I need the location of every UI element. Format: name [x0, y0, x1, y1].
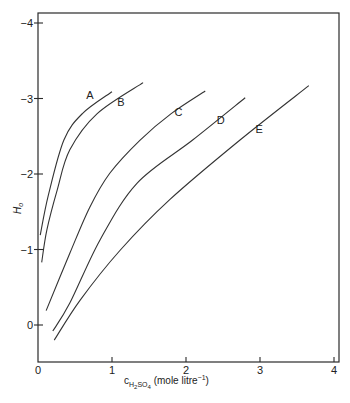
curve-label-e: E — [256, 123, 263, 135]
y-tick-label: 0 — [27, 319, 33, 331]
x-axis-ticks: 01234 — [35, 357, 337, 376]
curve-label-b: B — [117, 96, 124, 108]
curve-c — [46, 91, 205, 311]
y-tick-label: −4 — [20, 17, 33, 29]
x-tick-label: 3 — [257, 364, 263, 376]
curve-label-d: D — [217, 114, 225, 126]
curve-e — [54, 86, 309, 340]
acidity-function-chart: 01234 0−1−2−3−4 ABCDE cH2SO4 (mole litre… — [0, 0, 350, 403]
x-axis-label: cH2SO4 (mole litre−1) — [124, 374, 209, 390]
x-tick-label: 4 — [331, 364, 337, 376]
y-tick-label: −2 — [20, 168, 33, 180]
curve-d — [53, 98, 245, 331]
y-tick-label: −1 — [20, 244, 33, 256]
curves — [40, 83, 309, 340]
x-tick-label: 0 — [35, 364, 41, 376]
curve-label-a: A — [86, 89, 94, 101]
y-tick-label: −3 — [20, 93, 33, 105]
y-axis-ticks: 0−1−2−3−4 — [20, 17, 43, 331]
curve-b — [42, 83, 143, 263]
x-tick-label: 1 — [109, 364, 115, 376]
curve-label-c: C — [175, 106, 183, 118]
plot-frame — [38, 13, 339, 362]
curve-labels: ABCDE — [86, 89, 263, 136]
y-axis-label: Ho — [12, 203, 24, 214]
